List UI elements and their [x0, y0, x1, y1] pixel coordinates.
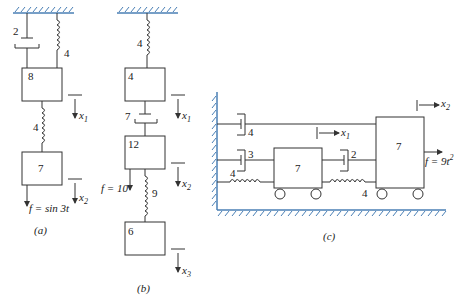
mass-b-3-label: 6 — [128, 225, 134, 237]
x1-label-a: x1 — [78, 109, 88, 124]
x3-label-b: x3 — [181, 264, 191, 279]
force-label-b: f = 10 — [101, 182, 128, 194]
x2-label-b: x2 — [181, 177, 191, 192]
ceiling-a — [13, 7, 74, 13]
figure-b: 4 4 x1 7 12 f = 10 x2 9 6 — [101, 7, 191, 295]
x1-label-c: x1 — [340, 126, 350, 141]
wall-c — [212, 92, 217, 210]
damper-b — [135, 101, 157, 136]
damper-c-left — [217, 150, 274, 171]
wheel-c-2b — [413, 189, 423, 199]
force-label-c: f = 9t2 — [425, 153, 454, 167]
figure-c: 4 3 4 7 x1 2 4 — [212, 92, 454, 243]
damper-b-label: 7 — [125, 110, 131, 122]
wheel-c-2a — [377, 189, 387, 199]
spring-a-mid-label: 4 — [33, 121, 39, 133]
caption-c: (c) — [323, 230, 336, 243]
spring-b-mid — [145, 169, 148, 222]
spring-b-top — [147, 13, 150, 68]
mass-a-1-label: 8 — [28, 70, 34, 82]
x2-label-c: x2 — [440, 97, 450, 112]
spring-c-left — [217, 180, 274, 183]
mass-c-1-label: 7 — [295, 162, 301, 174]
damper-c-left-label: 3 — [248, 148, 254, 160]
floor-c — [217, 210, 446, 216]
x1-label-b: x1 — [181, 109, 191, 124]
spring-b-mid-label: 9 — [152, 187, 158, 199]
spring-c-mid — [322, 180, 376, 183]
damper-c-mid — [322, 150, 376, 171]
force-label-a: f = sin 3t — [29, 202, 70, 214]
mass-a-2-label: 7 — [38, 162, 44, 174]
caption-b: (b) — [137, 282, 150, 295]
damper-a-label: 2 — [13, 25, 19, 37]
mass-b-2-label: 12 — [128, 138, 139, 150]
mechanical-systems-diagram: 2 4 8 x1 4 7 f = sin 3t x2 (a) 4 — [0, 0, 465, 307]
wheel-c-1b — [311, 189, 321, 199]
caption-a: (a) — [34, 224, 47, 237]
damper-a — [15, 13, 39, 68]
damper-c-top-label: 4 — [248, 126, 254, 138]
damper-c-mid-label: 2 — [351, 148, 357, 160]
wheel-c-1a — [275, 189, 285, 199]
mass-c-2-label: 7 — [396, 140, 402, 152]
spring-c-mid-label: 4 — [362, 187, 368, 199]
spring-a-top — [57, 13, 60, 68]
spring-c-left-label: 4 — [230, 167, 236, 179]
spring-b-top-label: 4 — [137, 37, 143, 49]
mass-b-1-label: 4 — [128, 70, 134, 82]
figure-a: 2 4 8 x1 4 7 f = sin 3t x2 (a) — [13, 7, 88, 237]
mass-c-2 — [376, 117, 424, 188]
damper-c-top — [217, 114, 376, 135]
ceiling-b — [117, 7, 178, 13]
x2-label-a: x2 — [78, 191, 88, 206]
spring-a-mid — [42, 101, 45, 152]
spring-a-top-label: 4 — [64, 47, 70, 59]
